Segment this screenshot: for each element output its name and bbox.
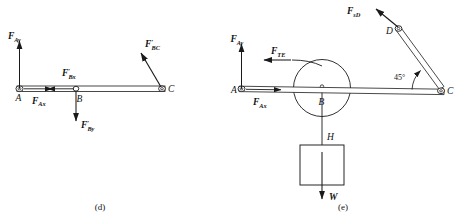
- force-label-F-Ay-panel-d: F Ay: [7, 31, 21, 43]
- pin-joint-C: [159, 86, 166, 92]
- force-arrow-F-BC-prime-panel-d: [141, 53, 161, 87]
- point-label-B-panel-d: B: [77, 94, 83, 104]
- force-arrow-F-sD-panel-e: [376, 9, 398, 27]
- bar-AC-panel-e: [239, 86, 444, 94]
- point-label-D-panel-e: D: [385, 26, 393, 36]
- point-label-C-panel-d: C: [168, 84, 175, 94]
- panel-caption-e: (e): [338, 202, 348, 212]
- svg-text:Ax: Ax: [37, 100, 45, 107]
- svg-text:TE: TE: [277, 51, 285, 58]
- force-label-F-sD-panel-e: F sD: [346, 6, 361, 18]
- svg-text:sD: sD: [352, 11, 360, 18]
- svg-text:Ay: Ay: [236, 39, 244, 46]
- pin-joint-B: [73, 86, 79, 91]
- angle-arc-45-at-C: [412, 71, 421, 90]
- point-label-C-panel-e: C: [447, 86, 454, 96]
- svg-text:Bx: Bx: [67, 73, 75, 80]
- svg-text:W: W: [329, 192, 338, 202]
- free-body-diagram-figure: A B C F Ay F Ax F ′ Bx F ′: [0, 0, 458, 221]
- force-arrow-F-Ax-panel-e: [246, 89, 281, 90]
- point-label-H-panel-e: H: [326, 132, 335, 142]
- force-label-F-Ax-panel-d: F Ax: [31, 96, 46, 108]
- point-label-A-panel-e: A: [230, 85, 237, 95]
- pin-joint-D-panel-e: [395, 26, 402, 32]
- cable-over-pulley: [292, 60, 322, 145]
- panel-e: A B C D H F Ay F Ax F TE F sD: [230, 6, 455, 212]
- force-label-F-Ax-panel-e: F Ax: [252, 97, 267, 109]
- svg-text:Ax: Ax: [258, 102, 266, 109]
- force-label-F-Bx-prime-panel-d: F ′ Bx: [61, 67, 76, 80]
- svg-text:Ay: Ay: [13, 36, 21, 43]
- panel-caption-d: (d): [95, 202, 106, 212]
- point-label-B-panel-e: B: [319, 97, 325, 107]
- force-label-F-Ay-panel-e: F Ay: [230, 34, 244, 46]
- svg-text:BC: BC: [151, 44, 161, 51]
- pin-joint-C-panel-e: [438, 88, 445, 94]
- force-label-F-By-prime-panel-d: F ′ By: [80, 119, 95, 132]
- diagram-canvas: A B C F Ay F Ax F ′ Bx F ′: [0, 0, 458, 221]
- force-label-W-panel-e: W: [329, 192, 338, 202]
- svg-text:By: By: [86, 125, 94, 132]
- force-label-F-TE-panel-e: F TE: [270, 46, 285, 58]
- angle-label-45: 45°: [394, 73, 405, 82]
- force-label-F-BC-prime-panel-d: F ′ BC: [144, 38, 161, 51]
- panel-d: A B C F Ay F Ax F ′ Bx F ′: [7, 31, 175, 212]
- point-label-A-panel-d: A: [15, 93, 22, 103]
